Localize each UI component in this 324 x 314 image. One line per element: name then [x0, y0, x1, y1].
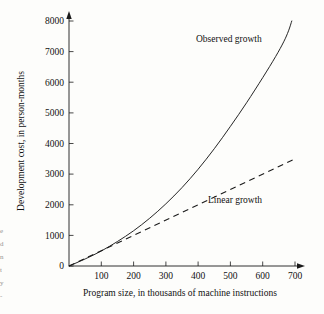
y-tick-label: 7000	[45, 47, 64, 57]
margin-fragment: n	[0, 253, 9, 261]
series-observed-growth	[69, 21, 292, 266]
series-label-observed-growth: Observed growth	[196, 34, 262, 44]
y-axis-title: Development cost, in person-months	[16, 71, 26, 211]
y-tick-label: 1000	[45, 231, 64, 241]
x-tick-label: 100	[94, 271, 109, 281]
figure-container: 0 1000 2000 3000 4000 5000 6000 7000 800…	[0, 0, 324, 314]
x-tick-label: 700	[288, 271, 303, 281]
margin-fragment: y	[0, 279, 9, 287]
series-label-linear-growth: Linear growth	[208, 195, 262, 205]
series-group	[69, 21, 295, 266]
x-tick-group: 100 200 300 400 500 600 700	[94, 262, 302, 281]
y-tick-label: 4000	[45, 139, 64, 149]
margin-fragment: -	[0, 292, 9, 300]
y-tick-label: 3000	[45, 169, 64, 179]
y-tick-label: 5000	[45, 108, 64, 118]
margin-fragment: d	[0, 240, 9, 248]
margin-fragment: e	[0, 227, 9, 235]
x-tick-label: 600	[256, 271, 271, 281]
x-tick-label: 500	[223, 271, 238, 281]
x-axis-title: Program size, in thousands of machine in…	[83, 288, 277, 298]
y-tick-label: 8000	[45, 16, 64, 26]
y-tick-label: 0	[59, 261, 64, 271]
x-tick-label: 400	[191, 271, 206, 281]
margin-fragment: t	[0, 266, 9, 274]
y-tick-label: 2000	[45, 200, 64, 210]
x-axis-arrow-icon	[297, 263, 305, 268]
x-tick-label: 200	[126, 271, 141, 281]
growth-cost-chart: 0 1000 2000 3000 4000 5000 6000 7000 800…	[0, 0, 324, 314]
axes-group	[66, 11, 305, 269]
x-tick-label: 300	[159, 271, 174, 281]
y-tick-label: 6000	[45, 78, 64, 88]
y-axis-arrow-icon	[66, 11, 71, 19]
